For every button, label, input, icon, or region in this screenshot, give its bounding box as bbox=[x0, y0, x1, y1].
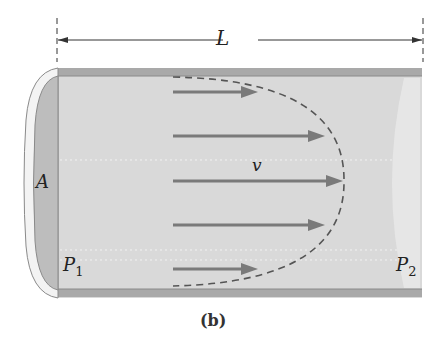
pipe bbox=[58, 68, 422, 298]
length-label: L bbox=[216, 26, 229, 50]
pressure-p1-base: P bbox=[63, 254, 75, 275]
velocity-label: v bbox=[252, 155, 262, 175]
pressure-p2-sub: 2 bbox=[408, 264, 416, 279]
pressure-label-p2: P2 bbox=[396, 254, 416, 279]
pipe-flow-diagram bbox=[0, 0, 442, 339]
length-dimension bbox=[57, 18, 423, 62]
pressure-p1-sub: 1 bbox=[75, 264, 83, 279]
figure-caption: (b) bbox=[200, 311, 226, 330]
pressure-p2-base: P bbox=[396, 254, 408, 275]
area-label: A bbox=[36, 171, 49, 192]
pressure-label-p1: P1 bbox=[63, 254, 83, 279]
